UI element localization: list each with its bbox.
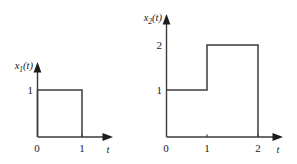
x2-y-tick-label-1: 1 bbox=[157, 84, 163, 96]
x2-y-axis-arrow-icon bbox=[163, 14, 171, 25]
x2-x-tick-label-2: 2 bbox=[255, 142, 261, 154]
x1-x-axis-name: t bbox=[107, 144, 111, 155]
x1-x-tick-label-0: 0 bbox=[34, 142, 40, 154]
x1-waveform bbox=[38, 90, 83, 137]
figure-root: x1(t) 1 0 1 t x2(t) 2 1 0 bbox=[0, 0, 297, 164]
x2-y-tick-label-2: 2 bbox=[157, 39, 163, 51]
plot-x1: x1(t) 1 0 1 t bbox=[14, 60, 113, 155]
x2-signal-label: x2(t) bbox=[143, 12, 163, 26]
x1-signal-label-paren: (t) bbox=[23, 60, 33, 72]
x2-waveform bbox=[167, 45, 259, 137]
signal-plots-canvas: x1(t) 1 0 1 t x2(t) 2 1 0 bbox=[0, 0, 297, 164]
x1-y-tick-label-1: 1 bbox=[28, 84, 34, 96]
x1-x-axis-arrow-icon bbox=[103, 133, 114, 141]
x1-x-tick-label-1: 1 bbox=[79, 142, 85, 154]
x2-x-axis-name: t bbox=[277, 144, 281, 155]
x2-x-tick-label-1: 1 bbox=[204, 142, 210, 154]
x1-signal-label: x1(t) bbox=[14, 60, 34, 74]
x2-x-tick-label-0: 0 bbox=[163, 142, 169, 154]
x2-signal-label-paren: (t) bbox=[152, 12, 162, 24]
x2-x-axis-arrow-icon bbox=[273, 133, 284, 141]
plot-x2: x2(t) 2 1 0 1 2 t bbox=[143, 12, 283, 155]
x1-y-axis-arrow-icon bbox=[34, 62, 42, 73]
